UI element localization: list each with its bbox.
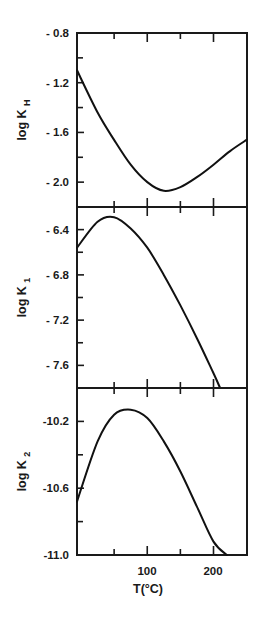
series-line-middle	[77, 217, 220, 388]
plot-frame	[77, 388, 247, 555]
x-axis-title: T(°C)	[133, 582, 163, 596]
y-tick-label: - 1.2	[46, 77, 69, 89]
x-tick-label-100: 100	[137, 565, 156, 577]
y-axis-title: log K 1	[15, 278, 32, 318]
y-tick-label: -11.0	[43, 549, 69, 561]
x-tick-label-200: 200	[203, 565, 222, 577]
series-line-bottom	[77, 410, 227, 555]
chart-figure: - 0.8- 1.2- 1.6- 2.0log K H- 6.4- 6.8- 7…	[0, 0, 264, 617]
y-axis-title: log K H	[15, 99, 32, 140]
plot-frame	[77, 207, 247, 388]
y-tick-label: - 7.6	[46, 359, 69, 371]
y-tick-label: - 0.8	[46, 27, 70, 39]
chart-panels: - 0.8- 1.2- 1.6- 2.0log K H- 6.4- 6.8- 7…	[15, 27, 247, 561]
panel-middle: - 6.4- 6.8- 7.2- 7.6log K 1	[15, 207, 247, 388]
y-tick-label: - 6.4	[46, 224, 70, 236]
y-tick-label: - 2.0	[46, 176, 69, 188]
y-tick-label: - 6.8	[46, 269, 70, 281]
y-tick-label: -10.2	[43, 415, 69, 427]
panel-top: - 0.8- 1.2- 1.6- 2.0log K H	[15, 27, 247, 207]
y-axis-title: log K 2	[15, 452, 32, 492]
series-line-top	[77, 70, 247, 191]
x-axis-labels: 100 200 T(°C)	[133, 565, 223, 596]
y-tick-label: - 1.6	[46, 126, 69, 138]
y-tick-label: - 7.2	[46, 314, 69, 326]
y-tick-label: -10.6	[43, 482, 69, 494]
panel-bottom: -10.2-10.6-11.0log K 2	[15, 388, 247, 561]
